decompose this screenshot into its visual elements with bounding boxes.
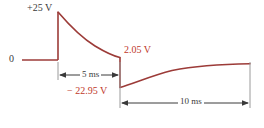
waveform-figure: +25 V 0 2.05 V − 22.95 V 5 ms 10 ms [0,0,264,128]
decay-curve [58,12,120,58]
duration-5ms-label: 5 ms [80,70,101,79]
voltage-at-5ms-label: 2.05 V [124,45,151,55]
zero-baseline-label: 0 [9,54,14,64]
duration-10ms-label: 10 ms [178,97,204,106]
recovery-curve [120,64,250,88]
minimum-voltage-label: − 22.95 V [67,86,107,96]
peak-voltage-label: +25 V [27,3,52,13]
waveform-plot [0,0,264,128]
